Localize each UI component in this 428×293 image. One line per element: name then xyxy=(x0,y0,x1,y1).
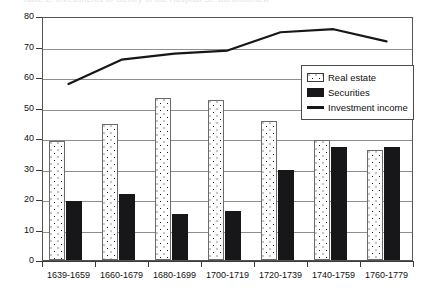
x-axis-line xyxy=(42,261,414,262)
bar-real-estate xyxy=(261,121,277,260)
x-tick-mark xyxy=(307,262,308,267)
bar-securities xyxy=(331,147,347,260)
y-tick-label-20: 20 xyxy=(8,195,34,204)
chart-figure: 01020304050607080 1639-16591660-16791680… xyxy=(0,0,428,293)
legend-item-investment-income: Investment income xyxy=(307,100,409,115)
x-tick-mark xyxy=(201,262,202,267)
bar-securities xyxy=(66,201,82,260)
x-tick-mark xyxy=(360,262,361,267)
plot-area xyxy=(42,17,413,261)
bar-securities xyxy=(172,214,188,260)
bar-real-estate xyxy=(208,100,224,260)
bar-group xyxy=(149,18,202,260)
bar-securities xyxy=(278,170,294,260)
legend-label-securities: Securities xyxy=(328,88,370,98)
bar-securities xyxy=(119,194,135,260)
x-tick-mark xyxy=(254,262,255,267)
bar-real-estate xyxy=(102,124,118,260)
y-tick-label-50: 50 xyxy=(8,104,34,113)
bar-group xyxy=(308,18,361,260)
bar-group xyxy=(43,18,96,260)
bar-group xyxy=(361,18,414,260)
bar-group xyxy=(202,18,255,260)
x-tick-mark xyxy=(42,262,43,267)
x-tick-mark xyxy=(148,262,149,267)
y-tick-label-70: 70 xyxy=(8,43,34,52)
x-tick-label-1760-1779: 1760-1779 xyxy=(352,270,422,280)
legend-swatch-investment-income-icon xyxy=(307,103,324,112)
bar-real-estate xyxy=(49,141,65,260)
chart-legend: Real estate Securities Investment income xyxy=(301,65,414,120)
x-tick-mark xyxy=(413,262,414,267)
y-tick-label-0: 0 xyxy=(8,256,34,265)
legend-swatch-securities-icon xyxy=(307,88,324,97)
y-tick-label-30: 30 xyxy=(8,165,34,174)
bar-real-estate xyxy=(314,140,330,260)
bar-group xyxy=(96,18,149,260)
x-tick-mark xyxy=(95,262,96,267)
bar-group xyxy=(255,18,308,260)
bar-real-estate xyxy=(367,150,383,260)
legend-swatch-real-estate-icon xyxy=(307,73,324,82)
y-tick-label-40: 40 xyxy=(8,134,34,143)
y-tick-label-80: 80 xyxy=(8,12,34,21)
y-tick-label-60: 60 xyxy=(8,73,34,82)
legend-item-real-estate: Real estate xyxy=(307,70,409,85)
bar-securities xyxy=(225,211,241,260)
y-tick-label-10: 10 xyxy=(8,226,34,235)
bar-securities xyxy=(384,147,400,260)
legend-label-real-estate: Real estate xyxy=(328,73,376,83)
legend-item-securities: Securities xyxy=(307,85,409,100)
bar-real-estate xyxy=(155,98,171,260)
legend-label-investment-income: Investment income xyxy=(328,103,408,113)
